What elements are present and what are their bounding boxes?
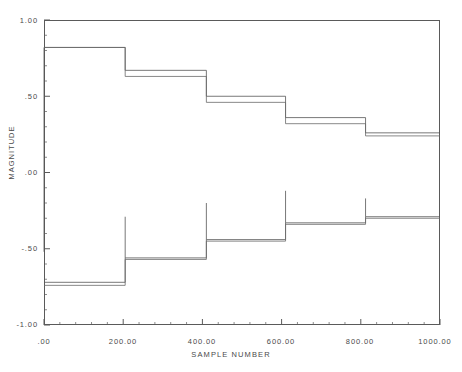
data-series [44,47,440,135]
xtick-label: 1000.00 [405,337,462,346]
ytick-label: .50 [2,92,38,101]
xtick-label: 800.00 [330,337,390,346]
xtick-label: .00 [14,337,74,346]
chart-container: 1.00 .50 .00 -.50 -1.00 .00 200.00 400.0… [0,0,462,372]
y-axis-title: MAGNITUDE [7,118,16,188]
data-series-group [44,47,440,285]
ytick-label: 1.00 [2,16,38,25]
data-series [44,47,440,132]
xtick-label: 600.00 [251,337,311,346]
ytick-label: -.50 [2,244,38,253]
xtick-label: 400.00 [172,337,232,346]
plot-area [44,20,440,325]
x-axis-title: SAMPLE NUMBER [0,350,462,359]
data-series [44,218,440,285]
xtick-label: 200.00 [93,337,153,346]
ytick-label: -1.00 [2,320,38,329]
axis-ticks [44,20,440,325]
data-series [44,217,440,283]
